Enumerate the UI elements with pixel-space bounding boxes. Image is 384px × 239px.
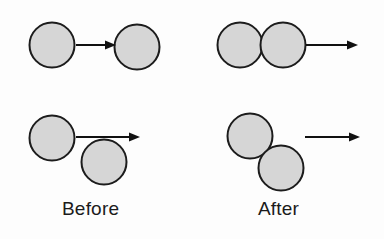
diagram-canvas <box>0 0 384 239</box>
ball-leading-head-on-after <box>261 23 306 68</box>
ball-target-head-on-before <box>115 25 160 70</box>
collision-diagram-figure: Before After <box>0 0 384 239</box>
ball-target-glancing-before <box>82 140 127 185</box>
panel-glancing-after <box>228 114 361 191</box>
label-after: After <box>258 198 299 220</box>
arrow-velocity-head-on-after <box>306 41 358 50</box>
ball-lower-glancing-after <box>259 146 304 191</box>
ball-moving-glancing-before <box>30 116 75 161</box>
arrow-velocity-head-on-before <box>76 41 116 50</box>
panel-glancing-before <box>30 116 141 185</box>
ball-moving-head-on-before <box>30 23 75 68</box>
label-before: Before <box>62 198 119 220</box>
ball-trailing-head-on-after <box>218 23 263 68</box>
arrow-velocity-glancing-after <box>305 133 360 142</box>
panel-head-on-after <box>218 23 359 68</box>
panel-head-on-before <box>30 23 160 70</box>
